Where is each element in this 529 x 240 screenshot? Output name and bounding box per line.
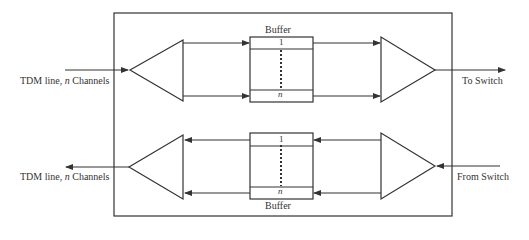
- demux-triangle-bottom: [381, 133, 435, 199]
- top-buffer-slot-1: 1: [279, 37, 284, 47]
- tdm-input-label: TDM line, n Channels: [20, 75, 109, 86]
- mux-triangle: [381, 37, 435, 102]
- to-switch-label: To Switch: [462, 75, 503, 86]
- demux-triangle: [130, 40, 183, 101]
- tdm-output-label: TDM line, n Channels: [20, 171, 109, 182]
- bottom-buffer-slot-n: n: [278, 186, 283, 196]
- bottom-buffer-slot-1: 1: [279, 134, 284, 144]
- top-buffer-slot-n: n: [278, 89, 283, 99]
- bottom-buffer-label: Buffer: [265, 200, 291, 211]
- top-buffer-label: Buffer: [265, 24, 291, 35]
- mux-triangle-bottom: [129, 135, 183, 199]
- from-switch-label: From Switch: [457, 171, 509, 182]
